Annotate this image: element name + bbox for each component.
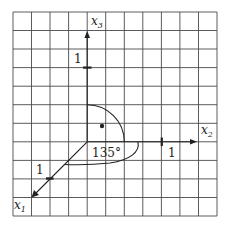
coordinate-diagram: x3 1 x2 1 x1 1 135° <box>0 0 228 226</box>
x2-axis <box>87 138 197 147</box>
x1-axis-label: x1 <box>14 198 26 214</box>
x1-tick-label: 1 <box>36 163 44 177</box>
arrow-right-icon <box>190 139 197 145</box>
x3-axis-label: x3 <box>91 14 103 30</box>
x2-tick-label: 1 <box>168 146 176 160</box>
x3-tick-label: 1 <box>74 52 82 66</box>
x2-axis-label: x2 <box>201 123 213 139</box>
point-marker <box>100 124 104 128</box>
angle-label: 135° <box>92 146 121 160</box>
arrow-up-icon <box>84 31 90 38</box>
